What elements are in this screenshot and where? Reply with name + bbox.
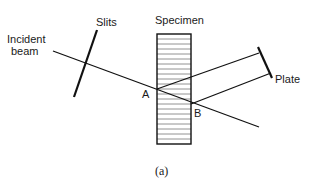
specimen-label: Specimen [155,14,204,26]
diffraction-diagram: Incident beam Slits Specimen A B Plate (… [0,0,311,184]
plate-label: Plate [275,73,300,85]
figure-caption: (a) [155,164,168,178]
incident-beam-label-line1: Incident [7,33,46,45]
point-a-label: A [142,88,150,100]
photographic-plate [258,47,272,78]
slits-label: Slits [96,16,117,28]
incident-beam-label-line2: beam [11,45,39,57]
point-b-label: B [194,107,201,119]
slit-line [74,30,97,97]
diffracted-ray-b [191,73,271,104]
specimen-hatching [157,39,191,139]
